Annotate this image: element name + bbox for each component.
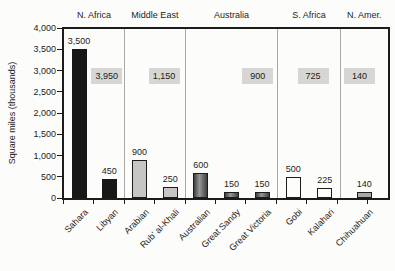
bar-value-label: 500 <box>268 164 318 175</box>
x-tick-mark <box>63 200 64 204</box>
y-tick-label: 0 <box>18 193 56 203</box>
bar-gobi <box>286 177 301 198</box>
region-header: Australia <box>186 10 276 21</box>
x-tick-mark <box>185 200 186 204</box>
y-tick-label: 4,000 <box>18 23 56 33</box>
region-total-badge: 900 <box>242 68 273 84</box>
desert-size-bar-chart: Square miles (thousands) 05001,0001,5002… <box>0 0 395 271</box>
y-tick-mark <box>57 91 62 92</box>
bar-value-label: 3,500 <box>54 36 104 47</box>
x-tick-mark <box>93 200 94 204</box>
region-total-badge: 725 <box>298 68 329 84</box>
bar-value-label: 900 <box>115 147 165 158</box>
y-tick-label: 2,000 <box>18 108 56 118</box>
y-tick-mark <box>57 176 62 177</box>
x-tick-mark <box>215 200 216 204</box>
region-separator <box>340 29 341 198</box>
x-tick-mark <box>154 200 155 204</box>
bar-value-label: 600 <box>176 160 226 171</box>
y-tick-mark <box>57 70 62 71</box>
y-tick-mark <box>57 49 62 50</box>
x-tick-mark <box>245 200 246 204</box>
y-tick-mark <box>57 198 62 199</box>
y-tick-mark <box>57 28 62 29</box>
x-tick-mark <box>337 200 338 204</box>
bar-great-victoria <box>255 192 270 198</box>
x-tick-mark <box>306 200 307 204</box>
x-tick-mark <box>276 200 277 204</box>
bar-rub-al-khali <box>163 187 178 198</box>
bar-chihuahuan <box>357 192 372 198</box>
bar-value-label: 450 <box>84 166 134 177</box>
x-tick-mark <box>367 200 368 204</box>
region-header: N. Amer. <box>319 10 395 21</box>
region-total-badge: 1,150 <box>149 68 180 84</box>
y-tick-label: 3,000 <box>18 66 56 76</box>
y-tick-label: 3,500 <box>18 44 56 54</box>
bar-libyan <box>102 179 117 198</box>
region-total-badge: 140 <box>344 68 375 84</box>
x-category-label: Chihuahuan <box>305 207 376 271</box>
y-tick-label: 500 <box>18 172 56 182</box>
bar-great-sandy <box>224 192 239 198</box>
y-tick-mark <box>57 155 62 156</box>
bar-kalahari <box>317 188 332 198</box>
y-tick-label: 1,500 <box>18 129 56 139</box>
bar-value-label: 150 <box>237 179 287 190</box>
x-tick-mark <box>124 200 125 204</box>
y-tick-mark <box>57 113 62 114</box>
y-tick-label: 1,000 <box>18 151 56 161</box>
bar-value-label: 250 <box>145 174 195 185</box>
region-separator <box>185 29 186 198</box>
bar-value-label: 140 <box>339 179 389 190</box>
y-tick-label: 2,500 <box>18 87 56 97</box>
region-total-badge: 3,950 <box>91 68 122 84</box>
y-tick-mark <box>57 134 62 135</box>
y-axis-title: Square miles (thousands) <box>6 33 18 193</box>
